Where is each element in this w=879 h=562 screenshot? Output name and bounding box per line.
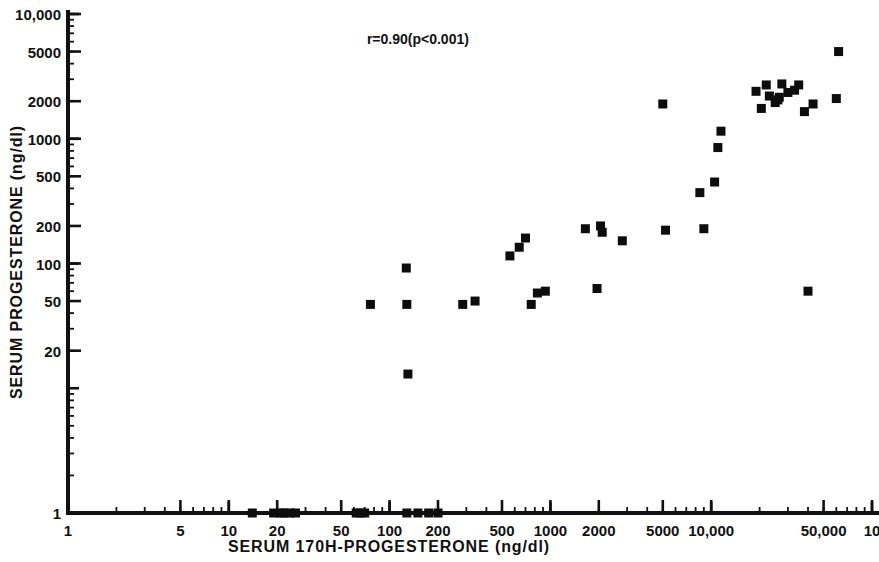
y-tick-label: 200: [36, 218, 61, 235]
data-point: [593, 284, 602, 293]
data-point: [804, 287, 813, 296]
data-point: [471, 297, 480, 306]
y-tick-label: 20: [44, 343, 61, 360]
x-tick-label: 1000: [534, 522, 567, 539]
y-tick-label: 1: [53, 505, 61, 522]
x-tick-label: 20: [269, 522, 286, 539]
x-tick-label: 500: [489, 522, 514, 539]
x-tick-label: 50: [333, 522, 350, 539]
data-point: [809, 99, 818, 108]
data-point: [716, 127, 725, 136]
data-point: [710, 178, 719, 187]
x-tick-label: 10,000: [688, 522, 734, 539]
x-tick-label: 200: [425, 522, 450, 539]
x-tick-label: 5000: [646, 522, 679, 539]
data-point: [291, 509, 300, 518]
chart-annotations: r=0.90(p<0.001): [367, 31, 469, 47]
y-tick-label: 500: [36, 168, 61, 185]
y-axis-title: SERUM PROGESTERONE (ng/dl): [8, 125, 25, 399]
data-point: [458, 300, 467, 309]
data-point: [541, 287, 550, 296]
x-tick-label: 2000: [582, 522, 615, 539]
data-point: [533, 289, 542, 298]
data-point: [794, 80, 803, 89]
y-tick-label: 5000: [28, 44, 61, 61]
data-point: [402, 300, 411, 309]
x-tick-label: 10: [864, 522, 879, 539]
data-point: [695, 188, 704, 197]
y-tick-label: 2000: [28, 93, 61, 110]
data-point: [777, 79, 786, 88]
data-point: [699, 224, 708, 233]
data-point: [403, 370, 412, 379]
x-tick-label: 50,000: [801, 522, 847, 539]
data-point: [618, 236, 627, 245]
scatter-plot-figure: 1510205010020050010002000500010,00050,00…: [0, 0, 879, 562]
y-tick-label: 50: [44, 293, 61, 310]
x-axis-title: SERUM 170H-PROGESTERONE (ng/dl): [228, 538, 550, 555]
y-tick-label: 10,000: [15, 6, 61, 23]
data-point: [434, 509, 443, 518]
data-point-series: [248, 47, 843, 517]
x-tick-label: 5: [176, 522, 184, 539]
data-point: [424, 509, 433, 518]
data-point: [505, 251, 514, 260]
data-point: [832, 94, 841, 103]
data-point: [752, 87, 761, 96]
data-point: [402, 509, 411, 518]
correlation-annotation: r=0.90(p<0.001): [367, 31, 469, 47]
data-point: [757, 104, 766, 113]
data-point: [775, 93, 784, 102]
y-tick-label: 1000: [28, 131, 61, 148]
y-tick-label: 100: [36, 256, 61, 273]
x-tick-label: 100: [377, 522, 402, 539]
data-point: [762, 80, 771, 89]
data-point: [360, 509, 369, 518]
data-point: [581, 224, 590, 233]
data-point: [527, 300, 536, 309]
x-axis-tick-labels: 1510205010020050010002000500010,00050,00…: [64, 522, 879, 539]
plot-canvas: 1510205010020050010002000500010,00050,00…: [0, 0, 879, 562]
data-point: [366, 300, 375, 309]
data-point: [658, 99, 667, 108]
data-point: [521, 234, 530, 243]
data-point: [515, 243, 524, 252]
data-point: [800, 107, 809, 116]
data-point: [402, 264, 411, 273]
data-point: [834, 47, 843, 56]
data-point: [413, 509, 422, 518]
x-tick-label: 10: [220, 522, 237, 539]
x-tick-label: 1: [64, 522, 72, 539]
data-point: [598, 228, 607, 237]
data-point: [713, 143, 722, 152]
data-point: [248, 509, 257, 518]
data-point: [661, 226, 670, 235]
